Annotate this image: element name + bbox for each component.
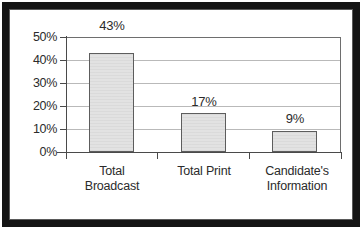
x-tick-2 [249, 153, 250, 159]
y-axis-label-20: 20% [12, 100, 57, 112]
x-axis-category-total-print-line1: Total Print [160, 164, 248, 179]
x-axis-category-total-broadcast: Total Broadcast [68, 164, 156, 194]
y-tick-50 [60, 37, 67, 38]
y-axis-label-40: 40% [12, 54, 57, 66]
y-axis-label-0: 0% [12, 146, 57, 158]
x-axis-line [57, 152, 342, 153]
x-axis-category-total-broadcast-line1: Total [68, 164, 156, 179]
y-axis-label-10: 10% [12, 123, 57, 135]
scanned-chart-figure: 50% 40% 30% 20% 10% 0% 43% 17% 9% Total … [0, 0, 363, 230]
bar-candidates-information [272, 131, 317, 152]
x-axis-category-total-broadcast-line2: Broadcast [68, 179, 156, 194]
y-tick-20 [60, 106, 67, 107]
bar-total-print [181, 113, 226, 152]
x-tick-1 [157, 153, 158, 159]
data-label-candidates-information: 9% [267, 111, 323, 126]
y-tick-10 [60, 129, 67, 130]
y-axis-line [66, 36, 67, 153]
x-axis-category-candidates-information-line1: Candidate's [251, 164, 343, 179]
data-label-total-print: 17% [176, 94, 232, 109]
x-axis-category-candidates-information: Candidate's Information [251, 164, 343, 194]
x-axis-category-total-print: Total Print [160, 164, 248, 179]
x-tick-start [66, 153, 67, 159]
y-tick-30 [60, 83, 67, 84]
x-tick-end [341, 153, 342, 159]
bar-chart: 50% 40% 30% 20% 10% 0% 43% 17% 9% Total … [10, 10, 352, 219]
y-axis-label-30: 30% [12, 77, 57, 89]
y-axis-label-50: 50% [12, 31, 57, 43]
x-axis-category-candidates-information-line2: Information [251, 179, 343, 194]
bar-total-broadcast [89, 53, 134, 152]
data-label-total-broadcast: 43% [84, 18, 140, 33]
y-tick-40 [60, 60, 67, 61]
